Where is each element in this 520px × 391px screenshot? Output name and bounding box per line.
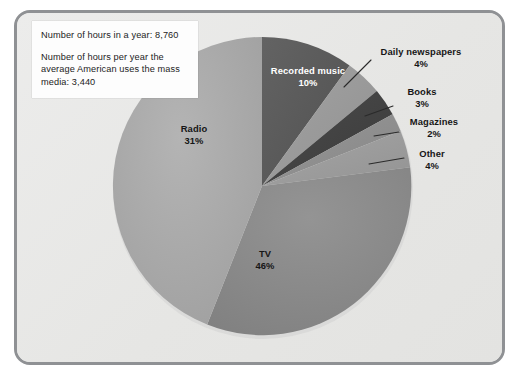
pie-label-books: Books 3% [386, 86, 458, 110]
pie-label-other: Other 4% [400, 148, 464, 172]
statistics-callout-box: Number of hours in a year: 8,760 Number … [32, 21, 198, 98]
pie-label-tv-pct: 46% [229, 260, 301, 272]
figure-page: Number of hours in a year: 8,760 Number … [0, 0, 520, 391]
pie-label-other-pct: 4% [400, 160, 464, 172]
pie-label-recorded-music-name: Recorded music [271, 65, 345, 76]
pie-label-other-name: Other [419, 148, 445, 159]
pie-label-daily-newspapers-pct: 4% [367, 58, 475, 70]
pie-label-radio-pct: 31% [154, 135, 234, 147]
pie-label-radio-name: Radio [181, 123, 208, 134]
pie-label-magazines-pct: 2% [393, 128, 475, 140]
pie-label-tv-name: TV [259, 248, 271, 259]
pie-label-daily-newspapers-name: Daily newspapers [381, 46, 462, 57]
pie-label-magazines: Magazines 2% [393, 116, 475, 140]
stat-hours-in-year: Number of hours in a year: 8,760 [41, 29, 189, 42]
pie-label-recorded-music-pct: 10% [262, 77, 354, 89]
stat-hours-mass-media: Number of hours per year the average Ame… [41, 51, 189, 89]
pie-label-books-pct: 3% [386, 98, 458, 110]
pie-label-magazines-name: Magazines [410, 116, 458, 127]
pie-label-recorded-music: Recorded music 10% [262, 65, 354, 89]
chart-stage: Number of hours in a year: 8,760 Number … [14, 10, 505, 365]
pie-label-books-name: Books [407, 86, 436, 97]
pie-label-radio: Radio 31% [154, 123, 234, 147]
pie-label-daily-newspapers: Daily newspapers 4% [367, 46, 475, 70]
pie-label-tv: TV 46% [229, 248, 301, 272]
